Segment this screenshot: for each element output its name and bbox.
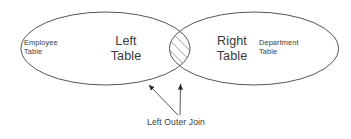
annotation-arrow-left-arc — [149, 85, 178, 115]
venn-diagram: Employee Table Left Table Right Table De… — [0, 0, 351, 139]
venn-diagram-canvas — [0, 0, 351, 139]
right-set-ellipse — [170, 12, 339, 85]
left-set-ellipse — [21, 12, 190, 85]
annotation-arrow-intersection — [180, 84, 181, 115]
